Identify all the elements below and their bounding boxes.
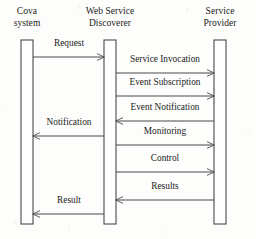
message-label-monitoring: Monitoring [112, 126, 218, 136]
message-label-control: Control [112, 153, 218, 163]
lifeline-label-provider: Service Provider [194, 6, 246, 29]
message-label-result: Result [40, 195, 98, 205]
message-label-results: Results [112, 181, 218, 191]
message-label-request: Request [40, 38, 98, 48]
lifeline-label-discoverer: Web Service Discoverer [76, 6, 144, 29]
message-label-service-invocation: Service Invocation [112, 54, 218, 64]
activation-box-cova [21, 40, 33, 224]
lifeline-label-cova: Cova system [4, 6, 50, 29]
message-label-event-subscription: Event Subscription [112, 77, 218, 87]
message-label-notification: Notification [36, 117, 102, 127]
sequence-diagram: Cova systemWeb Service DiscovererService… [0, 0, 256, 239]
message-label-event-notification: Event Notification [112, 102, 218, 112]
